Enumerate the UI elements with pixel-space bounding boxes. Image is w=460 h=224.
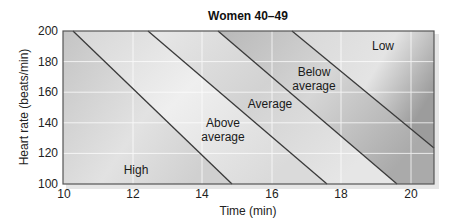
- y-tick: 140: [38, 116, 58, 130]
- x-axis-ticks: 10 12 14 16 18 20: [57, 187, 418, 201]
- y-tick: 200: [38, 24, 58, 38]
- y-axis-ticks: 100 120 140 160 180 200: [38, 24, 58, 191]
- x-tick: 10: [57, 187, 71, 201]
- zone-label-below-average: Below: [298, 65, 331, 79]
- zone-label-low: Low: [372, 39, 394, 53]
- heart-rate-chart: Women 40–49 100 120 140 160 180 200 10 1…: [0, 0, 460, 224]
- y-tick: 120: [38, 146, 58, 160]
- y-tick: 100: [38, 177, 58, 191]
- zone-label-above-average: Above: [206, 116, 240, 130]
- chart-title: Women 40–49: [208, 9, 288, 23]
- zone-label-average: Average: [248, 97, 293, 111]
- zone-label-above-average: average: [201, 130, 245, 144]
- x-tick: 14: [195, 187, 209, 201]
- zone-label-high: High: [124, 163, 149, 177]
- y-axis-label: Heart rate (beats/min): [17, 49, 31, 166]
- x-axis-label: Time (min): [220, 204, 277, 218]
- y-tick: 180: [38, 55, 58, 69]
- x-tick: 16: [265, 187, 279, 201]
- zone-label-below-average: average: [292, 79, 336, 93]
- x-tick: 20: [404, 187, 418, 201]
- y-tick: 160: [38, 85, 58, 99]
- x-tick: 12: [126, 187, 140, 201]
- x-tick: 18: [334, 187, 348, 201]
